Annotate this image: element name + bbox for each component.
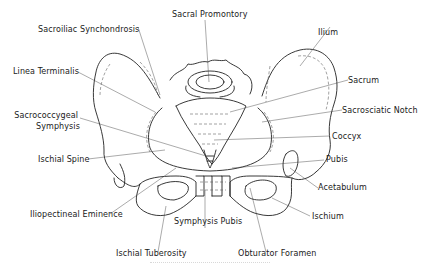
label-ischial-tuberosity: Ischial Tuberosity	[116, 249, 187, 258]
vertebral-foramen	[196, 75, 224, 89]
label-ischium: Ischium	[312, 212, 344, 221]
label-ischial-spine: Ischial Spine	[38, 155, 90, 164]
label-symphysis-sacrococcygeal: Symphysis	[36, 122, 80, 131]
coccyx-outline	[204, 150, 216, 168]
label-acetabulum: Acetabulum	[318, 183, 367, 192]
label-ilium: Ilium	[318, 28, 338, 37]
right-obturator-foramen	[245, 180, 276, 200]
label-sacroiliac-synchondrosis: Sacroiliac Synchondrosis	[38, 25, 139, 34]
left-obturator-foramen	[158, 182, 189, 201]
label-sacrococcygeal: Sacrococcygeal	[14, 111, 78, 120]
sacrum-outline	[176, 98, 246, 164]
faint-caption-remnant	[150, 262, 270, 265]
label-coccyx: Coccyx	[332, 132, 361, 141]
label-obturator-foramen: Obturator Foramen	[238, 249, 317, 258]
pubic-symphysis	[196, 176, 230, 196]
label-sacrum: Sacrum	[348, 76, 379, 85]
label-iliopectineal-eminence: Iliopectineal Eminence	[30, 210, 123, 219]
label-linea-terminalis: Linea Terminalis	[13, 67, 79, 76]
right-ischium-outline	[230, 172, 316, 216]
label-pubis: Pubis	[326, 155, 348, 164]
label-symphysis-pubis: Symphysis Pubis	[174, 217, 242, 226]
right-ilium-outline	[262, 49, 337, 172]
sacral-vertebra-ring	[188, 71, 232, 93]
label-sacrosciatic-notch: Sacrosciatic Notch	[342, 106, 418, 115]
label-sacral-promontory: Sacral Promontory	[172, 10, 248, 19]
left-ilium-outline	[93, 53, 160, 178]
pelvis-diagram: Sacral Promontory Sacroiliac Synchondros…	[0, 0, 425, 272]
